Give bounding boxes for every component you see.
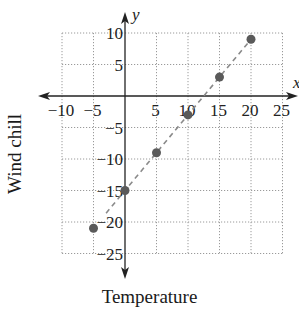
data-point (215, 73, 224, 82)
x-tick-label: 20 (242, 101, 259, 120)
data-point (121, 186, 130, 195)
x-tick-label: 5 (151, 101, 160, 120)
y-axis-symbol: y (130, 5, 140, 24)
data-point (89, 224, 98, 233)
x-tick-label: −10 (48, 101, 75, 120)
x-tick-label: 15 (210, 101, 227, 120)
y-tick-label: 10 (106, 24, 123, 43)
x-axis-symbol: x (292, 73, 299, 92)
data-point (184, 110, 193, 119)
y-tick-label: −5 (105, 119, 123, 138)
y-tick-label: −25 (96, 245, 123, 264)
data-point (152, 148, 161, 157)
x-axis-title: Temperature (0, 286, 299, 308)
chart-plot: yx−10−5510152025105−5−10−15−20−25 (0, 0, 299, 314)
y-tick-label: −20 (96, 213, 123, 232)
x-tick-label: 25 (273, 101, 290, 120)
data-point (247, 35, 256, 44)
y-tick-label: −10 (96, 150, 123, 169)
y-tick-label: 5 (115, 56, 124, 75)
x-tick-label: −5 (83, 101, 101, 120)
